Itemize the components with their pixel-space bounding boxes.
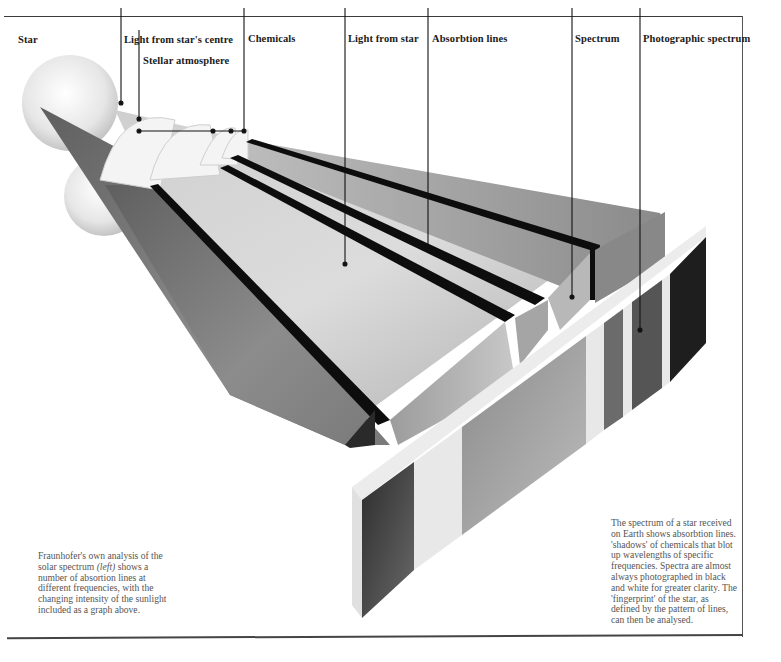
label-spectrum: Spectrum bbox=[575, 33, 620, 44]
label-light-from-star: Light from star bbox=[348, 33, 419, 44]
caption-left-italic: (left) bbox=[97, 561, 116, 572]
label-chemicals: Chemicals bbox=[248, 33, 296, 44]
caption-left: Fraunhofer's own analysis of the solar s… bbox=[38, 551, 168, 616]
caption-right: The spectrum of a star received on Earth… bbox=[611, 518, 739, 626]
label-photographic-spectrum: Photographic spectrum bbox=[643, 33, 750, 44]
label-stellar-atmosphere: Stellar atmosphere bbox=[143, 55, 229, 66]
label-light-from-centre: Light from star's centre bbox=[124, 34, 233, 45]
label-star: Star bbox=[18, 34, 38, 45]
label-absorption-lines: Absorbtion lines bbox=[432, 33, 507, 44]
